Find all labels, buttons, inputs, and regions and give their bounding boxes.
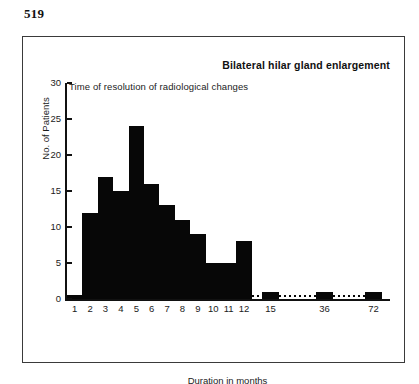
x-axis-line	[65, 299, 390, 301]
bar	[129, 126, 144, 299]
bar	[144, 184, 159, 299]
x-axis-title: Duration in months	[65, 375, 390, 384]
bar	[262, 292, 279, 299]
bar	[221, 263, 236, 299]
y-tick-label: 25	[39, 113, 61, 124]
bar	[82, 213, 97, 299]
bars-layer	[65, 83, 390, 299]
y-tick-label: 5	[39, 257, 61, 268]
y-tick-mark	[67, 82, 72, 84]
y-tick-mark	[67, 262, 72, 264]
bar	[365, 292, 382, 299]
x-tick-label: 12	[234, 303, 254, 314]
axis-break-dotted-line	[252, 295, 262, 297]
y-tick-mark	[67, 154, 72, 156]
y-tick-mark	[67, 190, 72, 192]
axis-break-dotted-line	[279, 295, 316, 297]
y-tick-mark	[67, 118, 72, 120]
axis-break-dotted-line	[333, 295, 365, 297]
y-tick-label: 0	[39, 293, 61, 304]
plot-area: Duration in months	[65, 83, 390, 299]
y-tick-label: 10	[39, 221, 61, 232]
x-tick-label: 72	[364, 303, 384, 314]
x-tick-label: 15	[261, 303, 281, 314]
chart-title: Bilateral hilar gland enlargement	[222, 59, 390, 71]
page-number: 519	[24, 6, 44, 22]
bar	[98, 177, 113, 299]
y-tick-label: 20	[39, 149, 61, 160]
bar	[175, 220, 190, 299]
y-tick-label: 15	[39, 185, 61, 196]
y-tick-mark	[67, 226, 72, 228]
bar	[190, 234, 205, 299]
bar	[316, 292, 333, 299]
bar	[206, 263, 221, 299]
y-tick-label: 30	[39, 77, 61, 88]
figure-frame: Bilateral hilar gland enlargement Time o…	[22, 36, 405, 363]
x-tick-label: 36	[315, 303, 335, 314]
bar	[113, 191, 128, 299]
y-tick-mark	[67, 298, 72, 300]
bar	[236, 241, 251, 299]
bar	[159, 205, 174, 299]
